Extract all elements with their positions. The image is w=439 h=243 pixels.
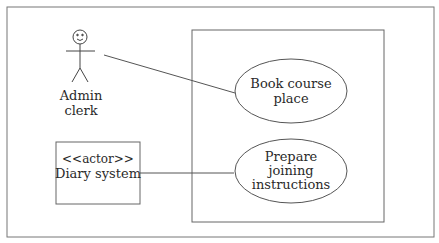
use-case-book-label-2: place	[273, 91, 309, 106]
actor-diary-label: Diary system	[55, 166, 141, 181]
use-case-book-label-1: Book course	[250, 76, 332, 91]
actor-head-icon	[73, 30, 87, 44]
actor-admin-label-1: Admin	[59, 88, 103, 103]
actor-diary-stereotype: <<actor>>	[62, 152, 134, 166]
actor-admin-clerk	[66, 30, 95, 82]
use-case-prepare-label-3: instructions	[252, 177, 331, 192]
use-case-diagram: Admin clerk <<actor>> Diary system Book …	[0, 0, 439, 243]
association-admin-book	[104, 55, 235, 93]
use-case-prepare-label-1: Prepare	[265, 149, 318, 164]
diagram-frame	[7, 7, 434, 237]
actor-admin-label-2: clerk	[64, 103, 97, 118]
use-case-prepare-label-2: joining	[266, 163, 313, 178]
